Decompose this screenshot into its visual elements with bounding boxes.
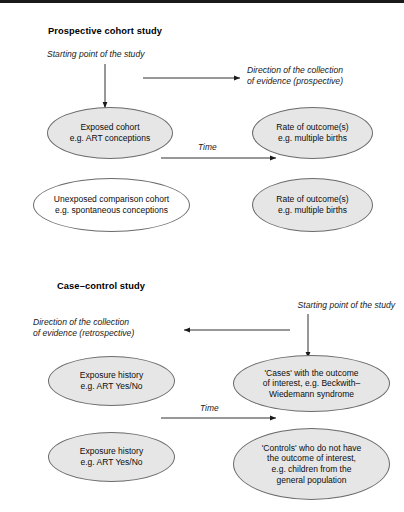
- annotation-direction-case-control: Direction of the collection of evidence …: [33, 317, 134, 339]
- node-cases-line2: of interest, e.g. Beckwith–: [257, 378, 366, 389]
- top-rule: [0, 0, 404, 3]
- node-outcome-unexposed-text: Rate of outcome(s) e.g. multiple births: [264, 194, 360, 215]
- node-unexposed-cohort-line2: e.g. spontaneous conceptions: [48, 205, 175, 216]
- panel-title-prospective: Prospective cohort study: [48, 26, 162, 36]
- label-time-case-control: Time: [200, 403, 219, 413]
- node-exposed-cohort-line1: Exposed cohort: [64, 122, 157, 133]
- node-outcome-unexposed-line2: e.g. multiple births: [270, 205, 354, 216]
- node-exposure-history-controls-text: Exposure history e.g. ART Yes/No: [68, 446, 155, 467]
- annotation-starting-point-prospective: Starting point of the study: [47, 49, 144, 60]
- label-time-prospective: Time: [198, 142, 217, 152]
- node-exposure-history-controls-line2: e.g. ART Yes/No: [74, 457, 149, 468]
- node-exposure-history-cases-line2: e.g. ART Yes/No: [74, 381, 149, 392]
- node-controls-line4: general population: [256, 475, 368, 486]
- node-exposure-history-cases-text: Exposure history e.g. ART Yes/No: [68, 370, 155, 391]
- annotation-direction-prospective-line2: of evidence (prospective): [247, 76, 343, 87]
- node-controls: 'Controls' who do not have the outcome o…: [233, 428, 390, 500]
- annotation-direction-prospective-line1: Direction of the collection: [247, 65, 343, 76]
- node-exposure-history-cases-line1: Exposure history: [74, 370, 149, 381]
- node-controls-line1: 'Controls' who do not have: [256, 443, 368, 454]
- panel-title-case-control: Case–control study: [57, 281, 145, 291]
- node-outcome-exposed-line1: Rate of outcome(s): [270, 122, 354, 133]
- node-outcome-exposed: Rate of outcome(s) e.g. multiple births: [252, 107, 373, 159]
- node-unexposed-cohort: Unexposed comparison cohort e.g. spontan…: [33, 178, 190, 232]
- node-cases: 'Cases' with the outcome of interest, e.…: [233, 355, 390, 412]
- node-controls-line2: the outcome of interest,: [256, 453, 368, 464]
- node-exposure-history-controls: Exposure history e.g. ART Yes/No: [48, 432, 175, 482]
- node-cases-line3: Wiedemann syndrome: [257, 389, 366, 400]
- annotation-direction-prospective: Direction of the collection of evidence …: [247, 65, 343, 87]
- node-cases-text: 'Cases' with the outcome of interest, e.…: [251, 368, 372, 400]
- node-unexposed-cohort-text: Unexposed comparison cohort e.g. spontan…: [42, 194, 181, 215]
- node-unexposed-cohort-line1: Unexposed comparison cohort: [48, 194, 175, 205]
- node-outcome-unexposed-line1: Rate of outcome(s): [270, 194, 354, 205]
- figure-canvas: Prospective cohort study Starting point …: [0, 0, 404, 512]
- node-controls-text: 'Controls' who do not have the outcome o…: [250, 443, 374, 485]
- annotation-starting-point-case-control: Starting point of the study: [195, 300, 395, 311]
- node-exposure-history-cases: Exposure history e.g. ART Yes/No: [48, 356, 175, 406]
- node-exposed-cohort-line2: e.g. ART conceptions: [64, 133, 157, 144]
- node-controls-line3: e.g. children from the: [256, 464, 368, 475]
- node-exposure-history-controls-line1: Exposure history: [74, 446, 149, 457]
- node-exposed-cohort-text: Exposed cohort e.g. ART conceptions: [58, 122, 163, 143]
- node-outcome-unexposed: Rate of outcome(s) e.g. multiple births: [252, 178, 373, 232]
- node-exposed-cohort: Exposed cohort e.g. ART conceptions: [47, 107, 173, 159]
- annotation-direction-case-control-line2: of evidence (retrospective): [33, 328, 134, 339]
- node-outcome-exposed-text: Rate of outcome(s) e.g. multiple births: [264, 122, 360, 143]
- node-cases-line1: 'Cases' with the outcome: [257, 368, 366, 379]
- annotation-direction-case-control-line1: Direction of the collection: [33, 317, 134, 328]
- node-outcome-exposed-line2: e.g. multiple births: [270, 133, 354, 144]
